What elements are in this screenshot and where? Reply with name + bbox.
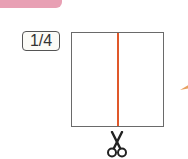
fraction-label: 1/4 bbox=[30, 33, 52, 49]
cut-line bbox=[117, 33, 119, 126]
scissors-icon bbox=[106, 131, 128, 159]
pencil-tip-icon bbox=[180, 84, 188, 90]
paper-square bbox=[71, 32, 164, 127]
fraction-badge: 1/4 bbox=[22, 31, 60, 51]
header-bar bbox=[0, 0, 62, 8]
